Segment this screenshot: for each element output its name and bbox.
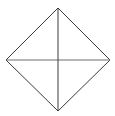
figure-canvas bbox=[0, 0, 115, 116]
diamond-figure-svg bbox=[0, 0, 115, 116]
